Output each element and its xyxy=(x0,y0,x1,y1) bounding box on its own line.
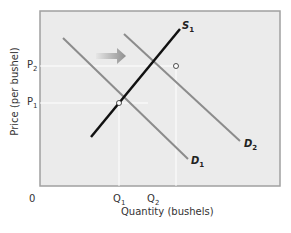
plot-area xyxy=(40,11,280,186)
equilibrium-point-2 xyxy=(174,64,179,69)
y-axis-label: Price (per bushel) xyxy=(9,42,20,142)
label-d1: D1 xyxy=(191,155,204,169)
supply-demand-chart xyxy=(0,0,291,233)
label-s1: S1 xyxy=(182,20,194,34)
tick-q2: Q2 xyxy=(147,193,159,207)
equilibrium-point-1 xyxy=(117,101,122,106)
tick-p2: P2 xyxy=(27,59,38,73)
tick-q1: Q1 xyxy=(113,193,125,207)
label-d2: D2 xyxy=(244,138,257,152)
origin-label: 0 xyxy=(29,193,35,204)
x-axis-label: Quantity (bushels) xyxy=(121,206,214,217)
tick-p1: P1 xyxy=(27,96,38,110)
